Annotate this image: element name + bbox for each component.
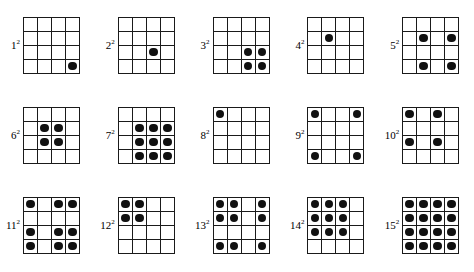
dot-icon: [447, 242, 456, 251]
grid-cell-r2-c4: [445, 122, 459, 136]
grid-cell-r1-c1: [24, 198, 38, 212]
grid-cell-r1-c2: [322, 108, 336, 122]
grid-cell-r1-c2: [133, 198, 147, 212]
grid-cell-r3-c1: [119, 136, 133, 150]
grid-cell-r2-c3: [52, 32, 66, 46]
dot-icon: [433, 110, 442, 119]
grid-cell-r2-c3: [336, 122, 350, 136]
grid-label-10: 102: [379, 130, 402, 141]
grid-label-base: 11: [6, 219, 17, 231]
grid-cell-r4-c3: [431, 60, 445, 74]
dot-icon: [40, 124, 49, 133]
grid-cell-r4-c1: [24, 60, 38, 74]
grid-cell-r1-c1: [403, 18, 417, 32]
dot-icon: [163, 138, 172, 147]
dot-icon: [405, 214, 414, 223]
grid-cell-r4-c1: [214, 150, 228, 164]
grid-cell-r3-c4: [445, 46, 459, 60]
grid-cell-r3-c2: [133, 136, 147, 150]
grid-cell-r3-c4: [256, 136, 270, 150]
dot-icon: [216, 242, 225, 251]
dot-icon: [433, 214, 442, 223]
grid-cell-r4-c1: [24, 150, 38, 164]
grid-label-exponent: 2: [396, 218, 400, 226]
grid-cell-r1-c3: [431, 108, 445, 122]
grid-cell-r1-c4: [66, 108, 80, 122]
grid-cell-r1-c1: [119, 108, 133, 122]
grid-cell-r1-c1: [119, 198, 133, 212]
grid-cell-r1-c1: [403, 198, 417, 212]
grid-cell-r3-c2: [417, 136, 431, 150]
grid-cell-r4-c4: [256, 150, 270, 164]
grid-label-base: 15: [385, 219, 396, 231]
dot-icon: [405, 242, 414, 251]
grid-cell-r1-c4: [161, 198, 175, 212]
grid-cell-r3-c4: [66, 136, 80, 150]
grid-label-base: 10: [385, 129, 396, 141]
dot-icon: [419, 228, 428, 237]
dot-icon: [244, 48, 253, 57]
grid-cell-r2-c3: [242, 32, 256, 46]
grid-cell-r4-c3: [52, 60, 66, 74]
grid-cell-r4-c1: [308, 150, 322, 164]
grid-cell-r4-c2: [38, 60, 52, 74]
grid-cell-r2-c2: [228, 212, 242, 226]
grid-cell-r2-c1: [308, 32, 322, 46]
grid-cell-r4-c2: [228, 150, 242, 164]
grid-cell-r4-c2: [417, 240, 431, 254]
grid-cell-r3-c2: [322, 136, 336, 150]
grid-cell-r1-c1: [24, 108, 38, 122]
grid-cell-r4-c1: [119, 240, 133, 254]
dot-icon: [325, 34, 334, 43]
grid-cell-r4-c3: [242, 240, 256, 254]
grid-box-11: [23, 197, 80, 254]
grid-cell-r1-c1: [308, 198, 322, 212]
grid-cell-r2-c1: [214, 32, 228, 46]
dot-icon: [419, 214, 428, 223]
dot-icon: [419, 62, 428, 71]
grid-box-5: [402, 17, 459, 74]
dot-icon: [405, 200, 414, 209]
grid-cell-r1-c2: [228, 18, 242, 32]
grid-label-2: 22: [95, 40, 118, 51]
grid-cell-r4-c2: [133, 60, 147, 74]
grid-cell-r2-c3: [52, 212, 66, 226]
grid-cell-r3-c4: [445, 136, 459, 150]
grid-label-9: 92: [284, 130, 307, 141]
dot-icon: [163, 152, 172, 161]
grid-cell-r4-c2: [322, 240, 336, 254]
grid-cell-r3-c1: [214, 136, 228, 150]
dot-icon: [216, 214, 225, 223]
grid-cell-r1-c3: [52, 198, 66, 212]
grid-cell-r3-c2: [38, 226, 52, 240]
grid-cell-r4-c2: [322, 60, 336, 74]
grid-cell-r2-c2: [322, 32, 336, 46]
dot-icon: [149, 124, 158, 133]
grid-cell-r4-c4: [256, 60, 270, 74]
grid-label-5: 52: [379, 40, 402, 51]
grid-group-15: 152: [379, 180, 474, 270]
grid-cell-r2-c1: [403, 212, 417, 226]
grid-cell-r1-c4: [256, 108, 270, 122]
grid-box-8: [213, 107, 270, 164]
grid-cell-r2-c2: [322, 122, 336, 136]
dot-icon: [419, 200, 428, 209]
grid-cell-r3-c1: [403, 46, 417, 60]
grid-cell-r1-c3: [431, 18, 445, 32]
grid-cell-r1-c3: [242, 18, 256, 32]
dot-icon: [230, 200, 239, 209]
grid-cell-r2-c1: [308, 212, 322, 226]
grid-cell-r4-c2: [38, 150, 52, 164]
grid-cell-r2-c1: [403, 32, 417, 46]
grid-cell-r2-c1: [403, 122, 417, 136]
grid-cell-r1-c1: [403, 108, 417, 122]
dot-icon: [40, 138, 49, 147]
grid-cell-r4-c4: [161, 60, 175, 74]
grid-cell-r1-c1: [308, 108, 322, 122]
grid-cell-r1-c3: [52, 108, 66, 122]
grid-cell-r4-c1: [403, 240, 417, 254]
grid-cell-r1-c4: [445, 18, 459, 32]
grid-cell-r4-c2: [38, 240, 52, 254]
grid-cell-r4-c2: [133, 240, 147, 254]
dot-icon: [121, 200, 130, 209]
